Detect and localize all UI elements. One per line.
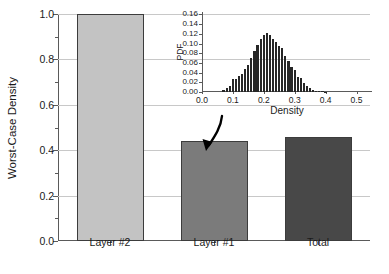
inset-y-tick	[199, 34, 202, 35]
bar-layer-1	[181, 141, 248, 241]
inset-x-tick	[202, 91, 203, 94]
inset-x-tick-label: 0.5	[345, 95, 369, 105]
histogram-bin	[284, 56, 286, 92]
histogram-bin	[269, 35, 271, 92]
histogram-bin	[321, 91, 323, 92]
x-tick-label: Layer #2	[60, 236, 160, 248]
inset-x-tick-label: 0.3	[283, 95, 307, 105]
y-minor-tick	[55, 128, 58, 129]
histogram-bin	[294, 70, 296, 92]
histogram-bin	[263, 35, 265, 92]
x-tick-label: Total	[268, 236, 368, 248]
main-y-axis-title: Worst-Case Density	[4, 14, 20, 241]
inset-y-tick	[199, 14, 202, 15]
histogram-bin	[238, 76, 240, 92]
inset-y-axis-title: PDF	[174, 12, 186, 92]
histogram-bin	[306, 86, 308, 92]
histogram-bin	[290, 67, 292, 92]
histogram-bin	[222, 90, 224, 92]
bar-layer-2	[77, 14, 144, 241]
histogram-bin	[241, 74, 243, 92]
y-minor-tick	[55, 82, 58, 83]
y-tick-label: 1.0	[20, 9, 54, 20]
histogram-bin	[297, 77, 299, 93]
inset-y-tick	[199, 63, 202, 64]
inset-x-tick	[357, 91, 358, 94]
y-minor-tick	[55, 218, 58, 219]
y-minor-tick	[55, 173, 58, 174]
histogram-bin	[287, 61, 289, 92]
inset-y-tick	[199, 53, 202, 54]
y-minor-tick	[55, 37, 58, 38]
main-y-axis-line	[58, 14, 59, 241]
histogram-bin	[309, 88, 311, 92]
histogram-bin	[244, 69, 246, 92]
histogram-bin	[229, 86, 231, 92]
inset-y-tick	[199, 44, 202, 45]
histogram-bin	[275, 42, 277, 92]
y-tick-label: 0.4	[20, 145, 54, 156]
histogram-bin	[247, 65, 249, 92]
x-tick-label: Layer #1	[164, 236, 264, 248]
histogram-bin	[232, 79, 234, 92]
inset-y-tick	[199, 24, 202, 25]
inset-to-bar-arrow-icon	[196, 114, 232, 152]
inset-x-tick-label: 0.0	[190, 95, 214, 105]
y-tick-label: 0.8	[20, 54, 54, 65]
histogram-bin	[235, 79, 237, 92]
y-tick-label: 0.6	[20, 100, 54, 111]
histogram-bin	[272, 39, 274, 92]
histogram-bin	[303, 83, 305, 92]
histogram-bin	[300, 78, 302, 92]
histogram-bin	[256, 45, 258, 93]
histogram-bin	[318, 91, 320, 92]
histogram-bin	[266, 33, 268, 92]
bar-total	[285, 137, 352, 241]
histogram-bin	[315, 91, 317, 92]
histogram-bin	[226, 88, 228, 92]
inset-y-tick	[199, 73, 202, 74]
histogram-bin	[281, 48, 283, 92]
inset-y-tick	[199, 82, 202, 83]
chart-figure: Worst-Case Density 0.00.20.40.60.81.0 La…	[0, 0, 389, 274]
histogram-bin	[278, 46, 280, 92]
inset-y-axis-line	[202, 12, 203, 92]
inset-plot-area: 0.000.020.040.060.080.100.120.140.16 0.0…	[202, 12, 372, 92]
histogram-bin	[312, 90, 314, 92]
histogram-bin	[250, 58, 252, 92]
histogram-bin	[253, 51, 255, 92]
y-tick-label: 0.2	[20, 191, 54, 202]
inset-x-tick-label: 0.4	[314, 95, 338, 105]
histogram-bin	[260, 39, 262, 92]
y-tick-label: 0.0	[20, 236, 54, 247]
inset-x-tick-label: 0.2	[252, 95, 276, 105]
inset-x-tick-label: 0.1	[221, 95, 245, 105]
